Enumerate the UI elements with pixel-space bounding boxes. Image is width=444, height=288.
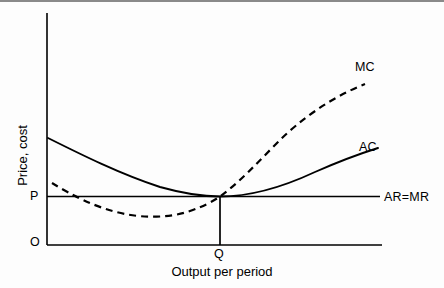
quantity-axis-label: Q xyxy=(214,247,224,261)
ac-curve xyxy=(48,138,378,197)
x-axis-title: Output per period xyxy=(0,264,444,279)
figure-screenshot: Price, cost Output per period MC AC AR=M… xyxy=(0,0,444,288)
y-axis-title: Price, cost xyxy=(15,106,30,206)
chart-plot-area xyxy=(0,0,444,288)
price-axis-label: P xyxy=(30,189,38,203)
ac-curve-label: AC xyxy=(359,140,377,154)
ar-mr-curve-label: AR=MR xyxy=(384,190,429,204)
origin-axis-label: O xyxy=(30,235,40,249)
mc-curve-label: MC xyxy=(355,60,375,74)
